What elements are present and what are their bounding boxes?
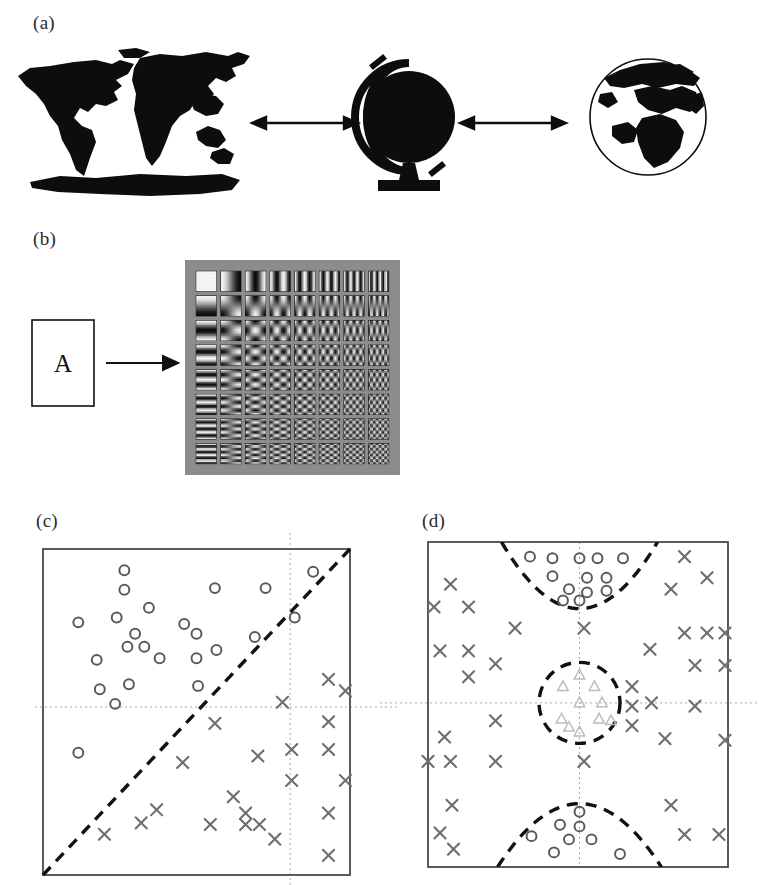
marker-cross [659,733,670,744]
marker-cross [665,800,676,811]
marker-circle [564,584,574,594]
marker-circle [119,565,129,575]
marker-cross [689,701,700,712]
series-class-cross [99,674,351,861]
dct-basis-patch [344,419,365,440]
marker-cross [578,623,589,634]
marker-triangle [558,681,569,691]
marker-cross [679,551,690,562]
dct-basis-patch [295,296,316,317]
dct-basis-patch [319,296,340,317]
marker-cross [269,834,280,845]
marker-cross [689,660,700,671]
dct-basis-patch [221,271,242,292]
transform-arrow-icon [106,356,178,370]
panel-label-c: (c) [36,510,58,532]
dct-grid-background [185,260,400,475]
marker-cross [445,756,456,767]
marker-cross [448,844,459,855]
marker-cross [446,800,457,811]
dct-basis-patch [369,271,390,292]
arrow-right-double [460,117,566,129]
marker-cross [286,775,297,786]
dct-basis-patch [196,394,217,415]
dct-basis-patch [245,271,266,292]
marker-circle [73,617,83,627]
dct-basis-patch [270,345,291,366]
marker-circle [210,583,220,593]
marker-circle [261,583,271,593]
dct-basis-patch [196,296,217,317]
marker-circle [582,573,592,583]
panel-label-b: (b) [33,228,56,250]
dct-basis-patch [344,296,365,317]
marker-cross [428,601,439,612]
dct-basis-patch [369,345,390,366]
marker-cross [323,674,334,685]
dct-basis-patch [196,444,217,465]
marker-circle [193,681,203,691]
dct-basis-patch [369,320,390,341]
dct-basis-patch [295,345,316,366]
marker-circle [144,603,154,613]
marker-cross [177,757,188,768]
dct-basis-patch [270,320,291,341]
dct-basis-patch [295,271,316,292]
marker-triangle [606,715,617,725]
marker-circle [602,573,612,583]
arrow-left-double [252,117,358,129]
dct-basis-patch [221,394,242,415]
panel-a-illustration [0,30,759,215]
marker-circle [602,586,612,596]
marker-circle [250,632,260,642]
marker-circle [192,629,202,639]
marker-cross [578,756,589,767]
dct-basis-patch [196,419,217,440]
marker-circle [564,834,574,844]
dct-basis-patch [196,320,217,341]
figure-root: (a) [0,0,759,885]
earth-sphere-icon [590,59,706,175]
dct-basis-patch [319,444,340,465]
marker-cross [240,807,251,818]
marker-circle [92,655,102,665]
marker-triangle [597,697,608,707]
marker-triangle [574,726,585,736]
marker-circle [179,619,189,629]
dct-basis-patch [319,271,340,292]
marker-circle [139,642,149,652]
marker-circle [130,629,140,639]
dct-basis-patch [270,296,291,317]
marker-cross [252,750,263,761]
marker-cross [713,829,724,840]
marker-circle [587,834,597,844]
marker-cross [701,627,712,638]
marker-cross [286,744,297,755]
marker-circle [527,831,537,841]
marker-circle [593,553,603,563]
marker-circle [112,613,122,623]
dct-basis-patch [270,394,291,415]
marker-cross [679,829,690,840]
marker-cross [626,701,637,712]
marker-cross [626,720,637,731]
marker-circle [192,653,202,663]
dct-basis-patch [245,394,266,415]
dct-basis-patch [344,271,365,292]
dct-basis-patch [270,370,291,391]
marker-circle [308,567,318,577]
dct-basis-grid [185,260,400,475]
dct-basis-patch [344,370,365,391]
marker-cross [509,623,520,634]
marker-cross [240,819,251,830]
marker-circle [290,613,300,623]
panel-d-scatter [380,530,759,880]
marker-circle [73,748,83,758]
marker-cross [209,718,220,729]
dct-basis-patch [295,444,316,465]
dct-basis-patch [221,345,242,366]
dct-basis-patch [221,296,242,317]
dct-basis-patch [369,419,390,440]
marker-cross [434,645,445,656]
dct-basis-patch [344,320,365,341]
